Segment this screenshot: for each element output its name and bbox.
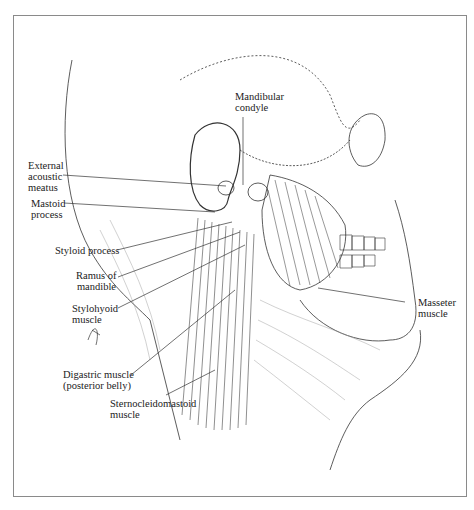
label-external-acoustic-meatus: External acoustic meatus	[28, 160, 64, 193]
masseter	[262, 175, 346, 290]
label-line: Mandibular	[235, 91, 284, 102]
label-masseter-muscle: Masseter muscle	[418, 297, 456, 319]
label-line: External	[28, 160, 64, 171]
label-line: Sternocleidomastoid	[110, 398, 196, 409]
label-ramus-of-mandible: Ramus of mandible	[76, 270, 116, 292]
label-line: Mastoid	[31, 198, 65, 209]
label-styloid-process: Styloid process	[55, 245, 119, 256]
ear	[190, 123, 240, 211]
artist-signature	[88, 329, 100, 345]
label-line: muscle	[110, 409, 196, 420]
label-line: Stylohyoid	[72, 303, 118, 314]
label-line: mandible	[76, 281, 116, 292]
label-line: muscle	[72, 314, 118, 325]
orbit	[349, 114, 385, 167]
label-line: muscle	[418, 308, 456, 319]
jaw-outline	[300, 200, 416, 341]
label-line: process	[31, 209, 65, 220]
label-mastoid-process: Mastoid process	[31, 198, 65, 220]
label-digastric-muscle: Digastric muscle (posterior belly)	[63, 369, 134, 391]
label-stylohyoid-muscle: Stylohyoid muscle	[72, 303, 118, 325]
label-line: Digastric muscle	[63, 369, 134, 380]
label-line: acoustic	[28, 171, 64, 182]
label-sternocleidomastoid-muscle: Sternocleidomastoid muscle	[110, 398, 196, 420]
label-line: meatus	[28, 182, 64, 193]
teeth	[340, 235, 385, 268]
label-line: Ramus of	[76, 270, 116, 281]
label-mandibular-condyle: Mandibular condyle	[235, 91, 284, 113]
label-line: (posterior belly)	[63, 380, 134, 391]
label-line: Styloid process	[55, 245, 119, 256]
label-line: condyle	[235, 102, 284, 113]
label-line: Masseter	[418, 297, 456, 308]
